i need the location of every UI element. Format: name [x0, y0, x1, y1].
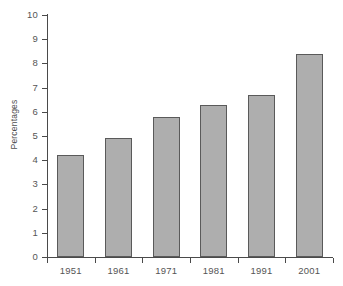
- x-axis-tick: [47, 258, 48, 263]
- y-axis-line: [47, 14, 48, 258]
- x-axis-tick: [238, 258, 239, 263]
- x-axis-tick: [95, 258, 96, 263]
- bar-chart: Percentages 109876543210 195119611971198…: [0, 0, 343, 286]
- y-axis-tick-label: 8: [8, 58, 38, 68]
- y-axis-tick-label: 10: [8, 10, 38, 20]
- x-axis-tick-label: 1981: [192, 266, 236, 276]
- x-axis-tick-label: 1961: [97, 266, 141, 276]
- y-axis-tick: [42, 15, 47, 16]
- x-axis-tick: [333, 258, 334, 263]
- x-axis-tick-label: 2001: [287, 266, 331, 276]
- y-axis-tick-label: 5: [8, 131, 38, 141]
- bar: [105, 138, 132, 257]
- x-axis-tick-label: 1951: [49, 266, 93, 276]
- x-axis-tick-label: 1971: [144, 266, 188, 276]
- bar: [57, 155, 84, 257]
- y-axis-tick: [42, 39, 47, 40]
- bar: [200, 105, 227, 257]
- y-axis-tick: [42, 160, 47, 161]
- y-axis-tick-label: 4: [8, 155, 38, 165]
- y-axis-tick: [42, 184, 47, 185]
- y-axis-tick: [42, 209, 47, 210]
- bar: [248, 95, 275, 257]
- x-axis-tick: [190, 258, 191, 263]
- x-axis-tick-label: 1991: [240, 266, 284, 276]
- y-axis-tick: [42, 136, 47, 137]
- bar: [296, 54, 323, 257]
- y-axis-title: Percentages: [10, 92, 19, 158]
- y-axis-tick-label: 7: [8, 83, 38, 93]
- y-axis-tick: [42, 112, 47, 113]
- y-axis-tick-label: 0: [8, 252, 38, 262]
- y-axis-tick-label: 6: [8, 107, 38, 117]
- y-axis-tick: [42, 88, 47, 89]
- y-axis-tick-label: 9: [8, 34, 38, 44]
- y-axis-tick-label: 1: [8, 228, 38, 238]
- y-axis-tick-label: 2: [8, 204, 38, 214]
- y-axis-tick: [42, 233, 47, 234]
- x-axis-tick: [285, 258, 286, 263]
- y-axis-tick-label: 3: [8, 179, 38, 189]
- y-axis-tick: [42, 63, 47, 64]
- x-axis-tick: [142, 258, 143, 263]
- bar: [153, 117, 180, 257]
